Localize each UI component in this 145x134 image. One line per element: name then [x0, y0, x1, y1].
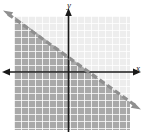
coordinate-plane-svg [0, 0, 145, 134]
grid-background [5, 12, 145, 134]
y-axis-label: y [67, 1, 71, 10]
x-axis-label: x [136, 64, 140, 73]
x-axis-arrow-left [2, 69, 10, 76]
graph-figure: y x [0, 0, 145, 134]
